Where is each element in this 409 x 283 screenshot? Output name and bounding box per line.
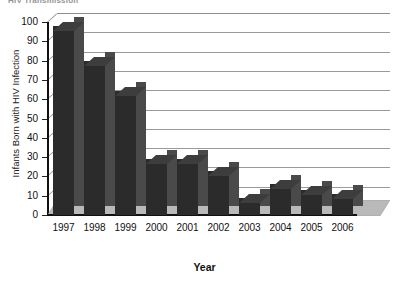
bar-front-face — [208, 171, 229, 215]
x-tick-label: 2006 — [326, 222, 360, 233]
bar-top-face — [146, 150, 177, 159]
bar-top-face — [332, 185, 363, 194]
x-tick-label: 1998 — [78, 222, 112, 233]
bar-top-face — [177, 150, 208, 159]
bar — [177, 150, 208, 215]
x-tick-label: 2005 — [295, 222, 329, 233]
bar-top-face — [115, 82, 146, 91]
x-tick-label: 2004 — [264, 222, 298, 233]
bar-top-face — [53, 17, 84, 26]
bar — [208, 162, 239, 215]
bar-top-face — [270, 175, 301, 184]
x-axis-title: Year — [0, 261, 409, 273]
bar-top-face — [239, 189, 270, 198]
bar-front-face — [84, 61, 105, 215]
bar-top-face — [301, 181, 332, 190]
x-tick-label: 2003 — [233, 222, 267, 233]
bar — [239, 189, 270, 215]
bar-side-face — [105, 52, 115, 206]
bar — [146, 150, 177, 215]
bar-front-face — [177, 159, 198, 215]
bar-front-face — [53, 26, 74, 215]
bar-side-face — [136, 82, 146, 206]
x-tick-label: 1999 — [109, 222, 143, 233]
x-tick-label: 1997 — [47, 222, 81, 233]
bar-side-face — [74, 17, 84, 206]
bar-series — [0, 0, 409, 283]
bar — [332, 185, 363, 215]
bar — [53, 17, 84, 215]
bar-front-face — [115, 91, 136, 215]
bar — [270, 175, 301, 215]
bar-top-face — [208, 162, 239, 171]
x-tick-label: 2001 — [171, 222, 205, 233]
bar — [301, 181, 332, 215]
bar-top-face — [84, 52, 115, 61]
bar-front-face — [146, 159, 167, 215]
x-tick-label: 2002 — [202, 222, 236, 233]
x-tick-label: 2000 — [140, 222, 174, 233]
bar — [84, 52, 115, 215]
bar — [115, 82, 146, 215]
bar-chart: HIV Transmission Infants Born with HIV I… — [0, 0, 409, 283]
